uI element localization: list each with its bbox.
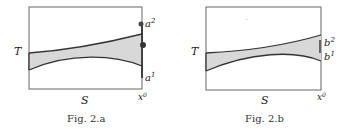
figure-2a: T S x0 a2 a1 Fig. 2.a [14, 7, 156, 124]
figure-2b-caption: Fig. 2.b [245, 113, 284, 124]
figure-2a-point-upper [139, 22, 144, 27]
figure-canvas: T S x0 a2 a1 Fig. 2.a ◦ T S x0 b2 b1 Fig… [0, 0, 345, 129]
figure-2b-label-b2: b2 [324, 36, 335, 48]
figure-2a-label-a2: a2 [145, 17, 156, 29]
figure-2b-y-label: T [191, 45, 200, 58]
figure-2b-shaded-region [206, 35, 321, 71]
figure-2a-point-middle [140, 42, 146, 48]
figure-2b: ◦ T S x0 b2 b1 Fig. 2.b [191, 7, 335, 124]
figure-2a-label-a1: a1 [145, 71, 155, 83]
figure-2a-y-label: T [14, 45, 23, 58]
figure-2b-x0-label: x0 [317, 91, 326, 102]
figure-2b-x-label: S [261, 94, 269, 107]
figure-2b-speck: ◦ [245, 16, 248, 22]
figure-2a-caption: Fig. 2.a [67, 113, 105, 124]
figure-2a-x-label: S [81, 94, 89, 107]
figure-2b-label-b1: b1 [324, 50, 335, 62]
figure-2a-x0-label: x0 [138, 91, 147, 102]
